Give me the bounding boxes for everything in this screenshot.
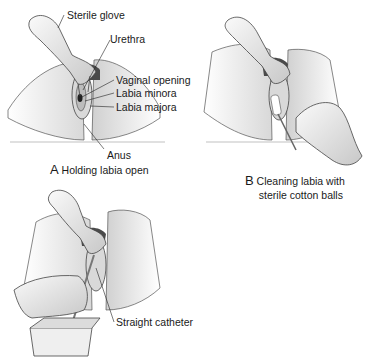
panel-c-drawing [14, 190, 160, 356]
label-sterile-glove: Sterile glove [67, 10, 125, 21]
label-labia-majora: Labia majora [116, 102, 177, 113]
panel-b-drawing [204, 17, 362, 165]
label-labia-minora: Labia minora [116, 88, 177, 99]
panel-b-caption-line1: Cleaning labia with [257, 175, 345, 187]
label-straight-catheter: Straight catheter [116, 317, 193, 328]
panel-a-caption: A Holding labia open [50, 163, 149, 178]
label-vaginal-opening: Vaginal opening [116, 75, 191, 86]
panel-a-caption-text: Holding labia open [62, 164, 149, 176]
panel-b-letter: B [245, 173, 254, 188]
panel-b-caption-line2: sterile cotton balls [245, 189, 345, 201]
label-urethra: Urethra [110, 34, 145, 45]
label-anus: Anus [107, 150, 131, 161]
panel-b-caption: B Cleaning labia with sterile cotton bal… [245, 174, 345, 201]
panel-a-letter: A [50, 162, 59, 177]
